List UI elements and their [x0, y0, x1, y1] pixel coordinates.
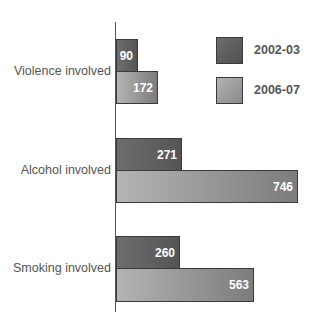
- bar-smoking-2006-07: 563: [116, 268, 254, 302]
- bar-value: 90: [120, 49, 133, 63]
- bar-value: 260: [155, 246, 175, 260]
- legend-label-2002-03: 2002-03: [254, 43, 300, 57]
- category-label-alcohol: Alcohol involved: [21, 163, 111, 177]
- category-label-smoking: Smoking involved: [13, 261, 111, 275]
- bar-value: 746: [273, 180, 293, 194]
- bar-alcohol-2006-07: 746: [116, 170, 298, 203]
- legend-label-2006-07: 2006-07: [254, 83, 300, 97]
- bar-value: 172: [133, 81, 153, 95]
- legend-swatch-2006-07: [216, 77, 243, 104]
- bar-value: 271: [157, 148, 177, 162]
- bar-violence-2002-03: 90: [116, 39, 138, 72]
- bar-alcohol-2002-03: 271: [116, 138, 182, 171]
- bar-smoking-2002-03: 260: [116, 236, 180, 269]
- category-label-violence: Violence involved: [14, 64, 111, 78]
- legend-swatch-2002-03: [216, 37, 243, 64]
- bar-violence-2006-07: 172: [116, 71, 158, 104]
- bar-value: 563: [229, 278, 249, 292]
